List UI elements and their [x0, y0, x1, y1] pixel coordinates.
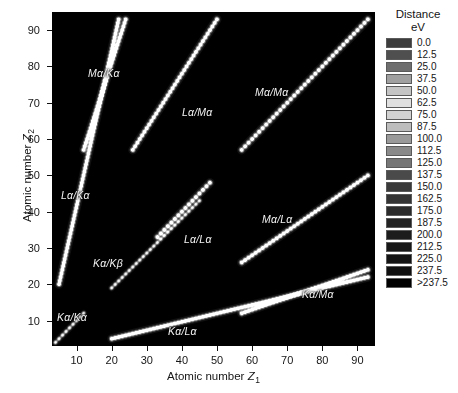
legend-swatch — [386, 170, 412, 180]
legend-swatch — [386, 62, 412, 72]
legend-row: 162.5 — [386, 193, 458, 205]
legend-swatch — [386, 242, 412, 252]
y-tick-label: 10 — [14, 316, 40, 327]
legend-swatch — [386, 74, 412, 84]
y-tick-label: 90 — [14, 25, 40, 36]
legend-label: 162.5 — [417, 194, 442, 204]
legend-items: 0.012.525.037.550.062.575.087.5100.0112.… — [386, 37, 458, 289]
legend-label: 112.5 — [417, 146, 441, 156]
x-tick-mark — [287, 346, 288, 351]
y-tick-mark — [47, 66, 52, 67]
x-tick-label: 80 — [309, 355, 335, 366]
legend-row: 237.5 — [386, 265, 458, 277]
x-axis-title: Atomic number Z1 — [52, 370, 375, 385]
legend-swatch — [386, 206, 412, 216]
legend-row: 87.5 — [386, 121, 458, 133]
x-tick-mark — [77, 346, 78, 351]
plot-annotation-ka-la: Kα/Lα — [168, 325, 197, 337]
plot-annotation-ma-ka: Mα/Kα — [88, 67, 120, 79]
legend-label: 62.5 — [417, 98, 436, 108]
y-tick-mark — [47, 212, 52, 213]
legend-row: 12.5 — [386, 49, 458, 61]
plot-annotation-ma-ma: Mα/Mα — [255, 86, 288, 98]
y-axis-title-text: Atomic number — [21, 145, 33, 222]
legend-swatch — [386, 254, 412, 264]
y-tick-mark — [47, 284, 52, 285]
x-axis-title-text: Atomic number — [167, 370, 244, 382]
y-axis-symbol: Z — [21, 134, 33, 141]
y-tick-mark — [47, 139, 52, 140]
legend-row: 200.0 — [386, 229, 458, 241]
legend-swatch — [386, 134, 412, 144]
xray-line-coincidence-figure: Mα/KαLα/MαMα/MαLα/KαKα/KβLα/LαMα/LαKα/Kα… — [0, 0, 458, 393]
x-tick-label: 50 — [204, 355, 230, 366]
plot-annotation-ka-kb: Kα/Kβ — [93, 257, 123, 269]
x-tick-label: 40 — [169, 355, 195, 366]
legend-row: 187.5 — [386, 217, 458, 229]
legend-row: 112.5 — [386, 145, 458, 157]
colorbar-legend: Distance eV 0.012.525.037.550.062.575.08… — [386, 8, 458, 289]
x-tick-mark — [322, 346, 323, 351]
legend-swatch — [386, 98, 412, 108]
legend-swatch — [386, 218, 412, 228]
legend-label: 50.0 — [417, 86, 436, 96]
x-axis-symbol: Z — [248, 370, 255, 382]
legend-row: 50.0 — [386, 85, 458, 97]
legend-label: 212.5 — [417, 242, 442, 252]
y-tick-label: 80 — [14, 61, 40, 72]
x-tick-mark — [182, 346, 183, 351]
legend-label: 137.5 — [417, 170, 442, 180]
x-tick-label: 30 — [134, 355, 160, 366]
y-tick-mark — [47, 175, 52, 176]
plot-annotation-la-la: Lα/Lα — [184, 233, 212, 245]
x-tick-mark — [252, 346, 253, 351]
legend-row: 37.5 — [386, 73, 458, 85]
legend-row: 100.0 — [386, 133, 458, 145]
legend-row: 125.0 — [386, 157, 458, 169]
legend-label: 25.0 — [417, 62, 436, 72]
legend-label: >237.5 — [417, 278, 448, 288]
x-tick-label: 20 — [99, 355, 125, 366]
legend-swatch — [386, 50, 412, 60]
legend-swatch — [386, 146, 412, 156]
legend-row: 137.5 — [386, 169, 458, 181]
legend-row: 150.0 — [386, 181, 458, 193]
legend-title: Distance eV — [384, 8, 452, 34]
legend-label: 237.5 — [417, 266, 442, 276]
plot-annotation-ma-la: Mα/Lα — [262, 213, 292, 225]
legend-row: 75.0 — [386, 109, 458, 121]
x-tick-label: 60 — [239, 355, 265, 366]
legend-unit: eV — [384, 21, 452, 34]
y-tick-mark — [47, 103, 52, 104]
legend-label: 12.5 — [417, 50, 436, 60]
legend-swatch — [386, 110, 412, 120]
legend-row: 212.5 — [386, 241, 458, 253]
legend-swatch — [386, 86, 412, 96]
legend-swatch — [386, 122, 412, 132]
x-tick-label: 10 — [64, 355, 90, 366]
legend-swatch — [386, 266, 412, 276]
legend-label: 150.0 — [417, 182, 442, 192]
legend-swatch — [386, 278, 412, 288]
legend-label: 100.0 — [417, 134, 442, 144]
x-tick-label: 70 — [274, 355, 300, 366]
legend-label: 87.5 — [417, 122, 436, 132]
legend-label: 125.0 — [417, 158, 442, 168]
legend-label: 37.5 — [417, 74, 436, 84]
legend-row: 225.0 — [386, 253, 458, 265]
legend-label: 175.0 — [417, 206, 442, 216]
x-tick-label: 90 — [344, 355, 370, 366]
legend-row: 175.0 — [386, 205, 458, 217]
legend-label: 187.5 — [417, 218, 442, 228]
x-tick-mark — [147, 346, 148, 351]
y-tick-mark — [47, 30, 52, 31]
plot-annotation-la-ma: Lα/Mα — [182, 106, 212, 118]
legend-label: 75.0 — [417, 110, 436, 120]
legend-swatch — [386, 230, 412, 240]
legend-swatch — [386, 38, 412, 48]
x-tick-mark — [217, 346, 218, 351]
legend-swatch — [386, 194, 412, 204]
x-tick-mark — [112, 346, 113, 351]
legend-swatch — [386, 158, 412, 168]
plot-annotation-ka-ma: Kα/Mα — [302, 288, 334, 300]
